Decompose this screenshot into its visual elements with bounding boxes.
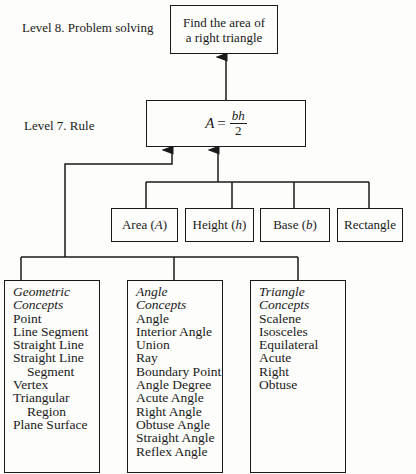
concept-item: Angle Degree	[136, 378, 222, 391]
group-heading: Concepts	[13, 298, 99, 311]
concept-item: Region	[13, 405, 99, 418]
concept-item: Union	[136, 338, 222, 351]
group-heading: Concepts	[136, 298, 222, 311]
problem-line2: a right triangle	[186, 30, 263, 45]
concept-item: Scalene	[259, 312, 345, 325]
concept-item: Obtuse	[259, 378, 345, 391]
rule-equals: =	[217, 115, 225, 132]
concept-box-rectangle: Rectangle	[337, 208, 403, 242]
concept-item: Right Angle	[136, 405, 222, 418]
level7-label: Level 7. Rule	[24, 118, 94, 134]
group-heading: Concepts	[259, 298, 345, 311]
group-heading: Angle	[136, 285, 222, 298]
concept-item: Acute	[259, 351, 345, 364]
problem-box: Find the area of a right triangle	[170, 5, 278, 54]
concept-item: Plane Surface	[13, 418, 99, 431]
concept-item: Reflex Angle	[136, 445, 222, 458]
rule-lhs: A	[205, 115, 214, 132]
concept-item: Point	[13, 312, 99, 325]
concept-item: Right	[259, 365, 345, 378]
concept-box-base: Base (b)	[260, 208, 330, 242]
concept-item: Segment	[13, 365, 99, 378]
concept-item: Triangular	[13, 391, 99, 404]
concept-item: Vertex	[13, 378, 99, 391]
concept-item: Straight Angle	[136, 431, 222, 444]
concept-item: Equilateral	[259, 338, 345, 351]
rule-denominator: 2	[235, 124, 242, 138]
geometric-concepts-box: GeometricConceptsPointLine SegmentStraig…	[4, 280, 100, 473]
concept-item: Straight Line	[13, 338, 99, 351]
rule-numerator: bh	[230, 109, 247, 124]
concept-box-height: Height (h)	[185, 208, 254, 242]
concept-item: Ray	[136, 351, 222, 364]
concept-item: Acute Angle	[136, 391, 222, 404]
concept-item: Straight Line	[13, 351, 99, 364]
group-heading: Triangle	[259, 285, 345, 298]
concept-item: Obtuse Angle	[136, 418, 222, 431]
concept-box-area: Area (A)	[111, 208, 178, 242]
problem-line1: Find the area of	[183, 15, 265, 30]
rule-box: A = bh 2	[146, 100, 306, 147]
rule-fraction: bh 2	[230, 109, 247, 138]
concept-item: Isosceles	[259, 325, 345, 338]
concept-item: Angle	[136, 312, 222, 325]
level8-label: Level 8. Problem solving	[22, 20, 153, 36]
concept-item: Boundary Point	[136, 365, 222, 378]
concept-item: Interior Angle	[136, 325, 222, 338]
group-heading: Geometric	[13, 285, 99, 298]
concept-item: Line Segment	[13, 325, 99, 338]
angle-concepts-box: AngleConceptsAngleInterior AngleUnionRay…	[127, 280, 223, 473]
triangle-concepts-box: TriangleConceptsScaleneIsoscelesEquilate…	[250, 280, 346, 473]
